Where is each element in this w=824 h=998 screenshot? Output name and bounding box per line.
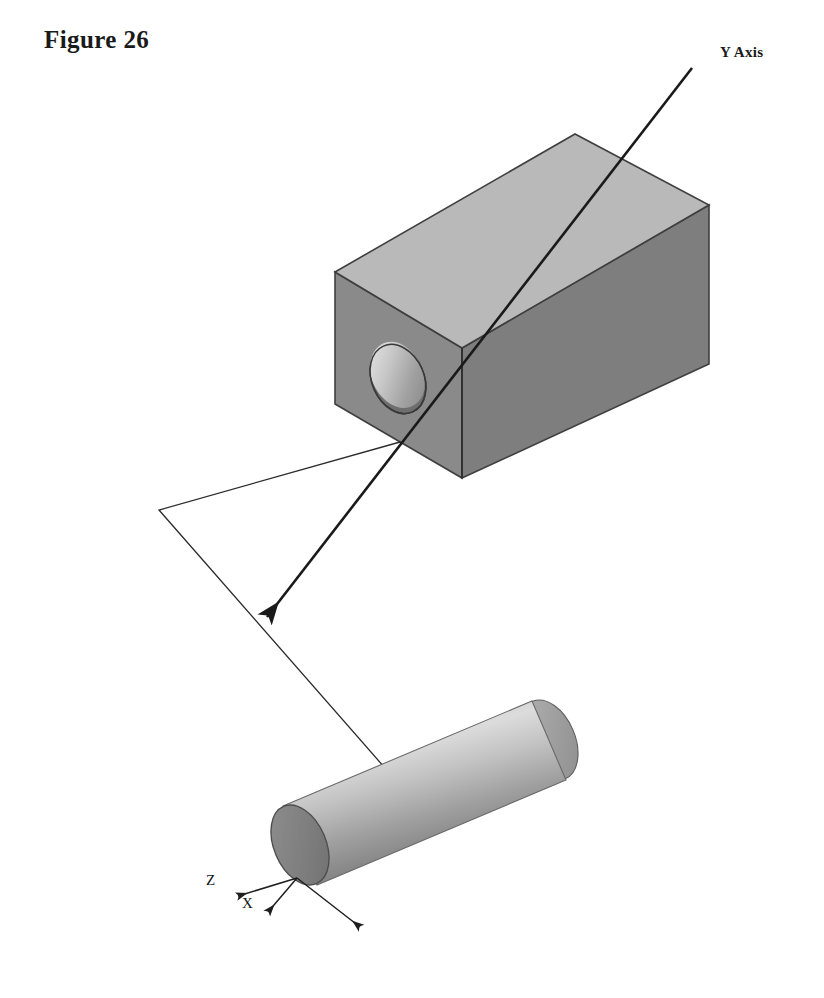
triad-arm-z <box>238 878 297 896</box>
figure-root: Figure 26 Y Axis Z X <box>0 0 824 998</box>
triad-arm-y <box>297 878 360 927</box>
coordinate-triad <box>238 878 360 927</box>
illustration-canvas <box>0 0 824 998</box>
block-body <box>335 134 709 478</box>
cylinder-bar <box>260 691 590 894</box>
